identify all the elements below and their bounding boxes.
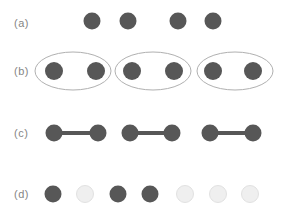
dot-light xyxy=(77,186,94,203)
dot-dark xyxy=(45,186,62,203)
dot-dark xyxy=(110,186,127,203)
dot-dark xyxy=(244,62,262,80)
dot-dark xyxy=(142,186,159,203)
dot-dark xyxy=(45,62,63,80)
dot-dark xyxy=(90,125,107,142)
dot-dark xyxy=(202,125,219,142)
dot-dark xyxy=(165,62,183,80)
dot-dark xyxy=(120,13,137,30)
dot-dark xyxy=(204,62,222,80)
diagram-canvas xyxy=(0,0,291,218)
dot-pairing-figure: (a) (b) (c) (d) xyxy=(0,0,291,218)
dot-dark xyxy=(245,125,262,142)
dot-dark xyxy=(170,13,187,30)
dot-light xyxy=(210,186,227,203)
dot-dark xyxy=(205,13,222,30)
dot-light xyxy=(177,186,194,203)
dot-dark xyxy=(123,62,141,80)
dot-dark xyxy=(122,125,139,142)
dot-light xyxy=(242,186,259,203)
dot-dark xyxy=(87,62,105,80)
dot-dark xyxy=(46,125,63,142)
dot-dark xyxy=(164,125,181,142)
dot-dark xyxy=(84,13,101,30)
